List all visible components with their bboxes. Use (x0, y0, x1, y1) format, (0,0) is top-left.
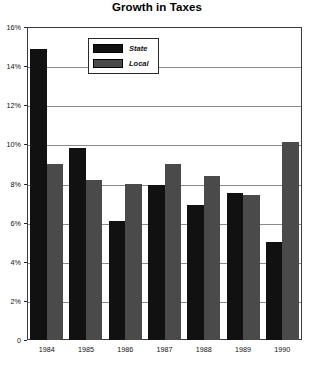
legend-entry-state: State (93, 42, 154, 55)
x-tick-label: 1985 (78, 345, 94, 354)
bar-state-1990 (266, 242, 283, 340)
bar-state-1986 (109, 221, 126, 340)
x-tick-label: 1984 (39, 345, 55, 354)
legend-label-state: State (129, 44, 147, 53)
x-tick-label: 1990 (274, 345, 290, 354)
y-tick-label: 4% (11, 257, 21, 266)
bar-state-1987 (148, 185, 165, 340)
bars-layer (27, 27, 302, 340)
chart-title: Growth in Taxes (0, 1, 314, 13)
bar-local-1987 (165, 164, 182, 340)
bar-state-1985 (69, 148, 86, 340)
bar-state-1988 (187, 205, 204, 340)
bar-local-1984 (47, 164, 64, 340)
x-tick-label: 1986 (117, 345, 133, 354)
y-tick-label: 2% (11, 296, 21, 305)
y-axis: 02%4%6%8%10%12%14%16% (0, 0, 27, 369)
x-axis: 1984198519861987198819891990 (27, 343, 302, 363)
bar-state-1984 (30, 49, 47, 340)
y-tick-label: 14% (7, 62, 21, 71)
chart-legend: State Local (88, 38, 159, 74)
black-swatch-icon (93, 44, 123, 53)
bar-chart: Growth in Taxes 02%4%6%8%10%12%14%16% 19… (0, 0, 314, 369)
bar-local-1986 (125, 184, 142, 341)
bar-local-1988 (204, 176, 221, 340)
y-tick-label: 8% (11, 179, 21, 188)
bar-local-1989 (243, 195, 260, 340)
y-tick-label: 0 (17, 336, 21, 345)
bar-local-1985 (86, 180, 103, 340)
y-tick-label: 16% (7, 23, 21, 32)
y-tick-mark (24, 340, 28, 341)
bar-local-1990 (282, 142, 299, 340)
legend-entry-local: Local (93, 57, 154, 70)
gray-swatch-icon (93, 59, 123, 68)
legend-label-local: Local (129, 59, 149, 68)
y-tick-label: 12% (7, 101, 21, 110)
x-tick-label: 1989 (235, 345, 251, 354)
bar-state-1989 (227, 193, 244, 340)
y-tick-label: 10% (7, 140, 21, 149)
y-tick-label: 6% (11, 218, 21, 227)
x-tick-label: 1988 (196, 345, 212, 354)
x-tick-label: 1987 (157, 345, 173, 354)
